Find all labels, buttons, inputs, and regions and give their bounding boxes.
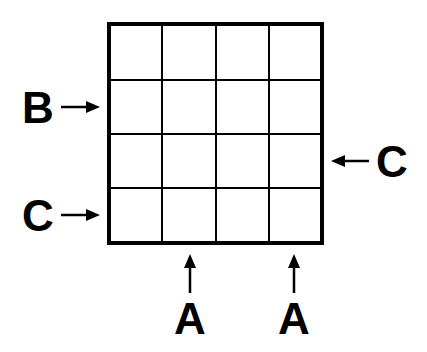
puzzle-grid-diagram bbox=[0, 0, 427, 352]
clue-label-right-row3: C bbox=[376, 140, 408, 184]
arrow-right-icon bbox=[61, 101, 100, 113]
arrow-up-icon bbox=[184, 254, 196, 293]
clue-label-left-row4: C bbox=[22, 194, 54, 238]
arrow-right-icon bbox=[61, 209, 100, 221]
grid bbox=[109, 24, 322, 243]
arrow-left-icon bbox=[331, 155, 369, 167]
clue-label-bottom-col4: A bbox=[278, 297, 310, 341]
clue-label-left-row2: B bbox=[22, 86, 54, 130]
clue-label-bottom-col2: A bbox=[174, 297, 206, 341]
arrow-up-icon bbox=[288, 254, 300, 293]
